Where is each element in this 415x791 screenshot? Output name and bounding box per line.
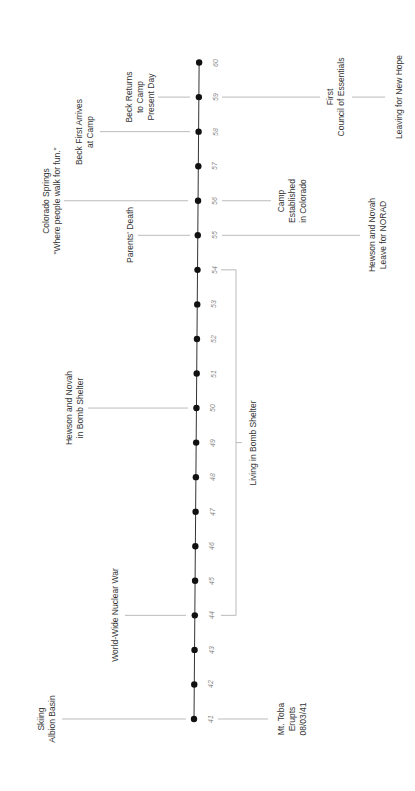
year-dot <box>192 509 198 515</box>
event-label-colorado-springs: Colorado Springs "Where people walk for … <box>41 147 63 254</box>
year-label: 43 <box>207 646 214 654</box>
event-label-leave-norad: Hewson and Novah Leave for NORAD <box>367 198 389 272</box>
year-dot <box>191 681 197 687</box>
event-label-beck-arrives: Beck First Arrives at Camp <box>74 99 96 165</box>
year-dot <box>194 301 200 307</box>
year-dot <box>192 578 198 584</box>
year-dot <box>195 163 201 169</box>
year-dot <box>192 612 198 618</box>
year-label: 48 <box>208 473 215 481</box>
year-label: 57 <box>211 162 218 170</box>
year-label: 52 <box>209 335 216 343</box>
year-dot <box>196 94 202 100</box>
timeline-diagram: 4142434445464748495051525354555657585960… <box>0 0 415 791</box>
year-label: 56 <box>211 197 218 205</box>
timeline-axis <box>194 63 199 719</box>
year-dot <box>194 336 200 342</box>
year-dot <box>193 405 199 411</box>
year-label: 53 <box>210 300 217 308</box>
year-dot <box>195 128 201 134</box>
event-label-camp-established: Camp Established in Colorado <box>276 179 309 223</box>
year-label: 60 <box>212 59 219 67</box>
event-label-parents-death: Parents' Death <box>125 207 136 263</box>
event-label-new-hope: Leaving for New Hope <box>394 55 405 139</box>
timeline-lines <box>0 0 415 791</box>
year-label: 47 <box>208 508 215 516</box>
event-label-nuclear-war: World-Wide Nuclear War <box>110 569 121 663</box>
year-dot <box>194 267 200 273</box>
event-label-skiing: Skiing Albion Basin <box>36 695 58 742</box>
year-dot <box>191 647 197 653</box>
year-label: 49 <box>209 439 216 447</box>
year-dot <box>195 232 201 238</box>
year-label: 59 <box>211 93 218 101</box>
year-label: 45 <box>208 577 215 585</box>
event-label-first-council: First Council of Essentials <box>325 58 347 137</box>
year-label: 50 <box>209 404 216 412</box>
year-label: 41 <box>207 715 214 723</box>
year-dot <box>191 716 197 722</box>
year-label: 58 <box>211 128 218 136</box>
event-label-bomb-shelter: Hewson and Novah in Bomb Shelter <box>64 371 86 445</box>
year-dot <box>196 59 202 65</box>
year-label: 44 <box>207 611 214 619</box>
year-dot <box>194 370 200 376</box>
span-label-living-bomb-shelter: Living in Bomb Shelter <box>248 400 259 485</box>
event-label-mt-toba: Mt. Toba Erupts 08/03/41 <box>276 702 309 735</box>
year-label: 46 <box>208 542 215 550</box>
year-dot <box>195 198 201 204</box>
year-dot <box>193 439 199 445</box>
year-dot <box>193 474 199 480</box>
year-label: 51 <box>209 370 216 378</box>
year-label: 54 <box>210 266 217 274</box>
event-label-beck-returns: Beck Returns to Camp Present Day <box>124 72 157 123</box>
year-label: 42 <box>207 681 214 689</box>
year-dot <box>192 543 198 549</box>
year-label: 55 <box>210 231 217 239</box>
